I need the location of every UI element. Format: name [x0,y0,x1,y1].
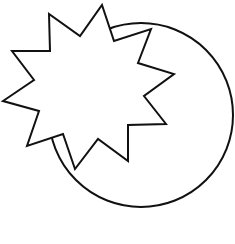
diagram-canvas [0,0,235,244]
